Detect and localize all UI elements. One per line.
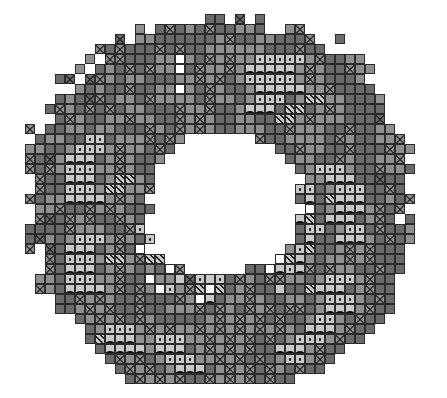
cell-arc — [275, 64, 285, 74]
cell-empty — [275, 244, 285, 254]
cell-dark-gray — [125, 124, 135, 134]
cell-medium-gray — [125, 254, 135, 264]
cell-arc — [325, 284, 335, 294]
cell-medium-gray — [145, 264, 155, 274]
cell-medium-gray — [385, 134, 395, 144]
cell-medium-gray — [285, 274, 295, 284]
cell-cross-hatch — [205, 104, 215, 114]
cell-dark-gray — [145, 104, 155, 114]
cell-medium-gray — [135, 34, 145, 44]
cell-cross-hatch — [305, 34, 315, 44]
cell-medium-gray — [125, 144, 135, 154]
cell-empty — [245, 194, 255, 204]
cell-empty — [365, 354, 375, 364]
cell-dark-gray — [365, 134, 375, 144]
cell-dark-gray — [275, 304, 285, 314]
cell-diagonal-stripe — [105, 254, 115, 264]
cell-arc — [85, 284, 95, 294]
cell-white — [175, 54, 185, 64]
cell-empty — [145, 214, 155, 224]
cell-dark-gray — [55, 254, 65, 264]
cell-empty — [265, 214, 275, 224]
cell-cross-hatch — [115, 54, 125, 64]
cell-dark-gray — [265, 314, 275, 324]
cell-dark-gray — [115, 104, 125, 114]
cell-empty — [285, 184, 295, 194]
cell-medium-gray — [335, 224, 345, 234]
cell-dark-gray — [225, 84, 235, 94]
cell-medium-gray — [135, 324, 145, 334]
cell-cross-hatch — [125, 114, 135, 124]
cell-empty — [245, 144, 255, 154]
cell-empty — [245, 204, 255, 214]
cell-arc — [125, 334, 135, 344]
cell-medium-gray — [215, 364, 225, 374]
cell-cross-hatch — [95, 74, 105, 84]
raster-row — [25, 374, 415, 384]
cell-dark-gray — [125, 294, 135, 304]
cell-empty — [375, 64, 385, 74]
cell-dark-gray — [215, 104, 225, 114]
cell-medium-gray — [205, 64, 215, 74]
cell-medium-gray — [315, 114, 325, 124]
cell-empty — [215, 214, 225, 224]
cell-empty — [115, 24, 125, 34]
cell-dark-gray — [175, 314, 185, 324]
cell-medium-gray — [235, 284, 245, 294]
cell-empty — [375, 84, 385, 94]
cell-dark-gray — [155, 294, 165, 304]
cell-dark-gray — [255, 24, 265, 34]
cell-dark-gray — [315, 214, 325, 224]
cell-dark-gray — [125, 304, 135, 314]
cell-diagonal-stripe — [155, 254, 165, 264]
cell-dark-gray — [35, 224, 45, 234]
cell-empty — [375, 334, 385, 344]
cell-dotted — [305, 184, 315, 194]
cell-empty — [395, 94, 405, 104]
cell-empty — [365, 74, 375, 84]
cell-dotted — [315, 334, 325, 344]
cell-dotted — [75, 254, 85, 264]
cell-empty — [35, 344, 45, 354]
cell-empty — [275, 204, 285, 214]
cell-empty — [325, 364, 335, 374]
cell-empty — [95, 24, 105, 34]
cell-dark-gray — [235, 84, 245, 94]
cell-arc — [255, 104, 265, 114]
cell-empty — [75, 374, 85, 384]
cell-medium-gray — [285, 294, 295, 304]
cell-medium-gray — [155, 324, 165, 334]
cell-empty — [35, 64, 45, 74]
cell-dark-gray — [195, 24, 205, 34]
cell-medium-gray — [295, 154, 305, 164]
cell-medium-gray — [255, 294, 265, 304]
cell-empty — [65, 54, 75, 64]
cell-arc — [75, 244, 85, 254]
cell-empty — [395, 24, 405, 34]
cell-empty — [205, 164, 215, 174]
cell-medium-gray — [65, 104, 75, 114]
cell-cross-hatch — [105, 204, 115, 214]
cell-medium-gray — [365, 64, 375, 74]
cell-empty — [35, 254, 45, 264]
cell-dark-gray — [385, 244, 395, 254]
cell-white — [275, 254, 285, 264]
raster-row — [25, 134, 415, 144]
cell-medium-gray — [235, 124, 245, 134]
cell-dark-gray — [135, 54, 145, 64]
cell-dark-gray — [85, 334, 95, 344]
cell-dark-gray — [275, 124, 285, 134]
cell-medium-gray — [215, 64, 225, 74]
cell-empty — [225, 214, 235, 224]
cell-medium-gray — [185, 24, 195, 34]
cell-dark-gray — [365, 104, 375, 114]
cell-cross-hatch — [395, 204, 405, 214]
cell-cross-hatch — [175, 124, 185, 134]
cell-dotted — [255, 54, 265, 64]
cell-dotted — [295, 184, 305, 194]
cell-empty — [365, 364, 375, 374]
cell-empty — [165, 154, 175, 164]
cell-cross-hatch-dark — [45, 154, 55, 164]
raster-row — [25, 44, 415, 54]
cell-dotted — [75, 164, 85, 174]
